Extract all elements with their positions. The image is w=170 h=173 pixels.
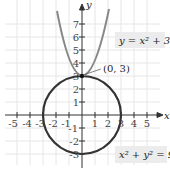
svg-text:2: 2 bbox=[73, 84, 79, 95]
svg-text:-2: -2 bbox=[69, 136, 79, 147]
axes bbox=[5, 4, 163, 168]
svg-text:-4: -4 bbox=[22, 118, 32, 129]
svg-text:1: 1 bbox=[73, 97, 79, 108]
svg-text:-1: -1 bbox=[68, 123, 78, 134]
svg-text:-5: -5 bbox=[8, 118, 18, 129]
point-leader bbox=[83, 69, 101, 75]
svg-text:5: 5 bbox=[73, 45, 79, 56]
graph: -5 -4 -3 -2 -1 1 2 3 4 5 -3 -2 -1 1 2 3 … bbox=[0, 0, 170, 173]
svg-text:7: 7 bbox=[73, 19, 79, 30]
svg-text:4: 4 bbox=[131, 118, 137, 129]
x-tick-labels: -5 -4 -3 -2 -1 1 2 3 4 5 bbox=[8, 118, 150, 129]
svg-text:6: 6 bbox=[73, 32, 79, 43]
x-axis-label: x bbox=[164, 110, 170, 121]
point-label: (0, 3) bbox=[103, 63, 130, 74]
parabola-label: y = x² + 3 bbox=[118, 35, 170, 46]
y-axis-label: y bbox=[85, 0, 92, 10]
svg-text:-2: -2 bbox=[48, 118, 58, 129]
svg-text:2: 2 bbox=[105, 118, 111, 129]
svg-text:5: 5 bbox=[144, 118, 150, 129]
parabola-curve bbox=[57, 9, 109, 76]
circle-label: x² + y² = 9 bbox=[119, 149, 170, 160]
svg-text:1: 1 bbox=[92, 118, 98, 129]
